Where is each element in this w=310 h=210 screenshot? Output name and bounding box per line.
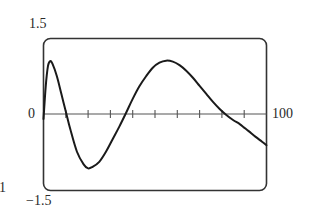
plot-area (0, 0, 310, 210)
